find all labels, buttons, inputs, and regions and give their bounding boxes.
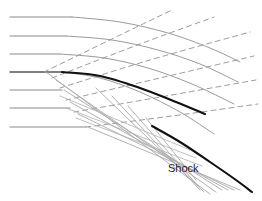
shock-formation-figure: Shock [0,0,262,201]
label-layer: Shock [168,162,199,174]
shock-label: Shock [168,162,199,174]
figure-canvas: Shock [0,0,262,201]
